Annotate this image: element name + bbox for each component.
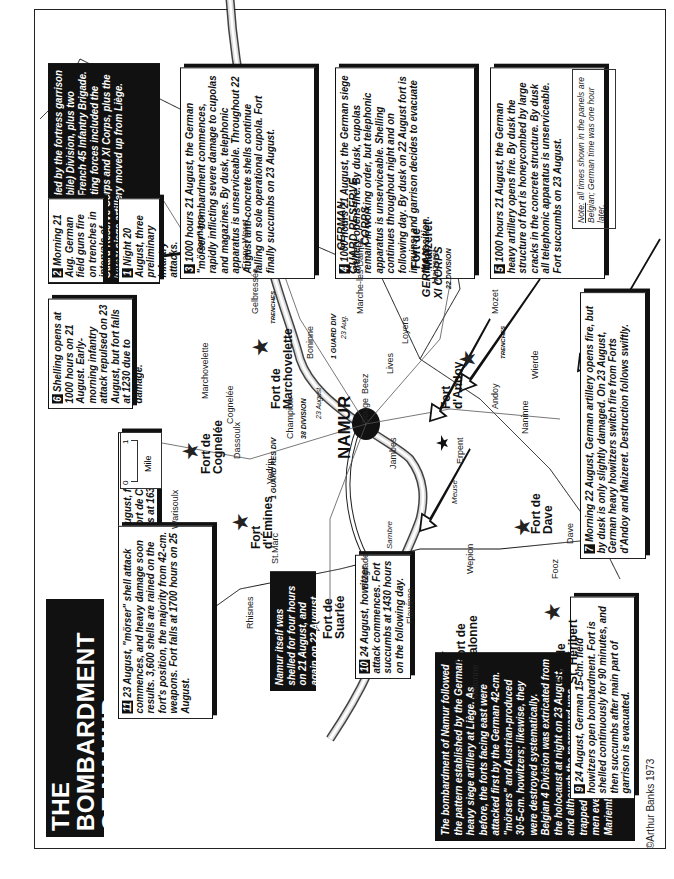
place-vedrin[interactable]: Vedrin (265, 458, 275, 484)
copyright: ©Arthur Banks 1973 (645, 759, 656, 849)
namur-shelled-panel: Namur itself was shelled for four hours … (270, 571, 316, 691)
place-fooz[interactable]: Fooz (550, 559, 560, 579)
scale-one: 1 (121, 440, 130, 444)
note-text: all times shown in the panels are Belgia… (576, 77, 606, 223)
place-marche-les-dames[interactable]: Marche-les-Dames (355, 238, 365, 314)
fort-stars (436, 435, 448, 451)
place-jambes[interactable]: Jambes (388, 437, 398, 469)
place-rhisnes[interactable]: Rhisnes (245, 596, 255, 629)
map-title: THE BOMBARDMENT OF NAMUR 21-25 AUGUST 19… (46, 599, 104, 837)
place-dassoulx[interactable]: Dassoulx (232, 422, 242, 459)
scale-zero: 0 (121, 481, 130, 485)
panel-number: 3 (184, 265, 195, 274)
place-boninne[interactable]: Boninne (305, 326, 315, 359)
panel-text: 24 August, German 15-cm. field howitzers… (573, 606, 631, 793)
river-sambre: Sambre (385, 521, 394, 549)
corps-guard-reserve: GERMANGUARD RESERVECORPS (335, 178, 371, 274)
place-marchovelette[interactable]: Marchovelette (200, 342, 210, 399)
place-naninne[interactable]: Naninne (520, 400, 530, 434)
fort-label-dave[interactable]: Fort deDave (530, 493, 554, 534)
unit-1-guard-div: 1 GUARD DIV (330, 314, 337, 359)
river-meuse: Meuse (450, 480, 459, 504)
city-namur[interactable]: NAMUR (335, 396, 355, 459)
place-gelbressee[interactable]: Gelbressée (250, 268, 260, 314)
fort-label-marchovelette[interactable]: Fort deMarchovelette (270, 328, 294, 409)
fort-label-cognelee[interactable]: Fort deCognelée (200, 420, 224, 474)
unit-germans: Germans (195, 215, 205, 254)
place-flawinne[interactable]: Flawinne (405, 588, 415, 624)
panel-number: 7 (584, 545, 595, 554)
place-dave[interactable]: Dave (565, 523, 575, 544)
place-st-marc[interactable]: St.Marc (270, 533, 280, 564)
fort-label-malonne[interactable]: Fort deMalonne (455, 615, 479, 664)
place-malonne[interactable]: Malonne (470, 664, 480, 699)
panel-text: Shelling opens at 1000 hours on 21 Augus… (51, 305, 144, 404)
fort-label-andoy[interactable]: Fortd'Andoy (440, 361, 464, 409)
panel-number: 10 (359, 660, 370, 674)
panel-number: 5 (494, 265, 505, 274)
scale-unit: Mile (143, 455, 153, 472)
unit-date-23aug: 23 Aug. (340, 315, 347, 339)
namur-shelled-text: Namur itself was shelled for four hours … (273, 586, 320, 686)
place-mozet[interactable]: Mozet (490, 289, 500, 314)
title-line-1: THE BOMBARDMENT OF NAMUR (48, 605, 123, 831)
panel-number: 1 (122, 269, 133, 278)
scale-bar: 0 1 Mile (120, 432, 162, 489)
fort-label-suarlee[interactable]: Fort deSuarlée (322, 596, 346, 639)
panel-text: 23 August, "mörser" shell attack commenc… (121, 532, 191, 714)
place-andoy[interactable]: Andoy (490, 383, 500, 409)
fort-label-heribert[interactable]: Fort deSt. Héribert (555, 619, 579, 684)
panel-text: 1000 hours 21 August, the German heavy a… (493, 82, 563, 273)
place-cognelee[interactable]: Cognelée (225, 385, 235, 424)
map-canvas: ★ ★ ★ ★ ★ ★ ★ ★ ★ THE BOMBARDMENT OF NAM… (0, 0, 674, 879)
place-wepion[interactable]: Wepion (465, 544, 475, 574)
unit-22-division: 22 DIVISION (445, 249, 452, 289)
place-warisoulx[interactable]: Warisoulx (170, 490, 180, 529)
panel-number: 11 (122, 700, 133, 713)
panel-number: 9 (574, 785, 585, 794)
panel-number: 2 (52, 269, 63, 278)
trenches-label-1: TRENCHES (270, 291, 276, 324)
fort-cognelee-star (436, 435, 448, 451)
note-label: Note: (576, 203, 586, 223)
panel-7: 7Morning 22 August, German artillery ope… (580, 292, 646, 559)
unit-date-23august: 23 August (315, 388, 322, 419)
panel-6: 6Shelling opens at 1000 hours on 21 Augu… (48, 299, 133, 409)
place-erpent[interactable]: Erpent (455, 437, 465, 464)
place-wierde[interactable]: Wierde (530, 350, 540, 379)
unit-38-division: 38 DIVISION (300, 399, 307, 439)
time-note: Note: all times shown in the panels are … (572, 69, 616, 229)
panel-1: 1Night 20 August, three preliminary infa… (118, 198, 160, 283)
place-maizeret[interactable]: Maizeret (430, 249, 440, 284)
place-belgrade[interactable]: Belgrade (360, 553, 370, 589)
place-champion[interactable]: Champion (285, 398, 295, 439)
place-beez[interactable]: Beez (360, 373, 370, 394)
place-loyers[interactable]: Loyers (400, 317, 410, 344)
place-bouge[interactable]: Bouge (360, 398, 370, 424)
panel-text: Morning 22 August, German artillery open… (583, 306, 630, 553)
trenches-label-2: TRENCHES (500, 326, 506, 359)
place-lives[interactable]: Lives (385, 353, 395, 374)
panel-11: 1123 August, "mörser" shell attack comme… (118, 526, 213, 719)
place-franc-waret[interactable]: Franc-Waret (240, 219, 250, 269)
panel-number: 6 (52, 395, 63, 404)
panel-2: 2Morning 21 Aug. German field guns fire … (48, 198, 104, 283)
